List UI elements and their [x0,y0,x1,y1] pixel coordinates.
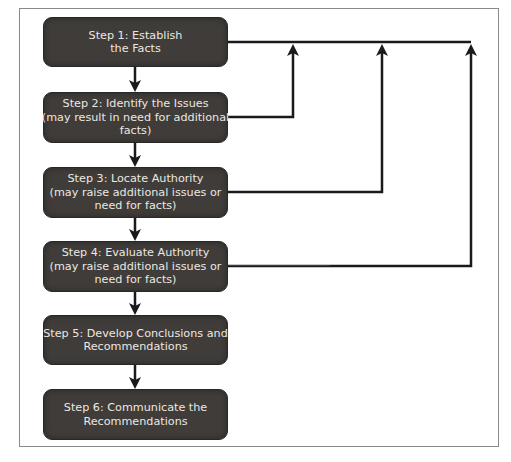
step-2-line-1: Step 2: Identify the Issues [63,97,209,111]
step-1-line-2: the Facts [110,42,161,56]
step-5-line-2: Recommendations [83,340,187,354]
step-2-box: Step 2: Identify the Issues (may result … [43,92,228,143]
step-4-box: Step 4: Evaluate Authority (may raise ad… [43,241,228,292]
step-3-box: Step 3: Locate Authority (may raise addi… [43,167,228,218]
step-3-line-2: (may raise additional issues or [50,186,222,200]
step-1-line-1: Step 1: Establish [89,29,183,43]
step-5-line-1: Step 5: Develop Conclusions and [43,327,228,341]
step-3-line-3: need for facts) [95,199,177,213]
step-4-line-2: (may raise additional issues or [50,260,222,274]
step-4-line-3: need for facts) [95,273,177,287]
feedback-lines [228,42,471,266]
step-1-box: Step 1: Establish the Facts [43,17,228,67]
step-2-line-2: (may result in need for additional [42,111,229,125]
step-6-box: Step 6: Communicate the Recommendations [43,389,228,440]
step-5-box: Step 5: Develop Conclusions and Recommen… [43,315,228,365]
step-6-line-2: Recommendations [83,415,187,429]
step-4-line-1: Step 4: Evaluate Authority [62,246,210,260]
step-6-line-1: Step 6: Communicate the [64,401,207,415]
step-3-line-1: Step 3: Locate Authority [68,172,204,186]
step-2-line-3: facts) [120,124,152,138]
